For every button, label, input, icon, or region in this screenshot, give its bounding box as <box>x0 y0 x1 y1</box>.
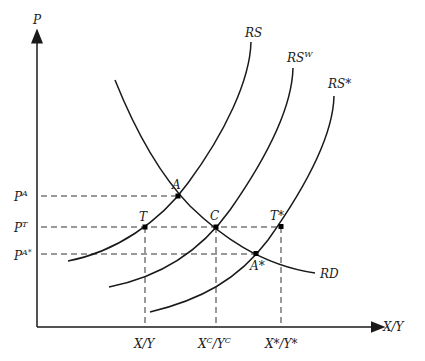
rd-label: RD <box>319 267 339 281</box>
guide-lines <box>41 196 281 327</box>
point-tstar <box>279 224 284 229</box>
rs-label: RS <box>244 26 262 40</box>
point-c-label: C <box>210 209 219 223</box>
y-tick-pt: PT <box>13 220 28 235</box>
y-tick-pa: PA <box>13 189 28 204</box>
x-axis-label: X/Y <box>382 320 405 334</box>
point-t-label: T <box>139 210 148 224</box>
point-c <box>214 225 219 230</box>
x-tick-xstar: X*/Y* <box>264 337 298 351</box>
x-tick-xc: XC/YC <box>197 336 231 351</box>
point-tstar-label: T* <box>270 209 284 223</box>
rsstar-curve <box>150 96 334 312</box>
trade-equilibrium-diagram: P X/Y RS RSW RS* RD A T C T* A* PA PT PA… <box>0 0 425 361</box>
y-axis-label: P <box>32 13 42 27</box>
y-tick-pastar: PA* <box>13 248 32 263</box>
rsstar-label: RS* <box>327 77 351 91</box>
rs-curve <box>68 42 251 261</box>
point-t <box>143 225 148 230</box>
point-a <box>176 194 181 199</box>
point-a-label: A <box>171 178 181 192</box>
point-astar <box>254 251 259 256</box>
rsw-label: RSW <box>286 50 313 65</box>
point-astar-label: A* <box>249 259 265 273</box>
x-tick-xy: X/Y <box>133 337 156 351</box>
